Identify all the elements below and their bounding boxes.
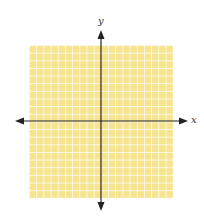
y-axis-down-arrow-icon bbox=[98, 202, 105, 211]
x-axis-right-arrow-icon bbox=[179, 118, 188, 125]
y-axis-up-arrow-icon bbox=[98, 30, 105, 39]
x-axis-left-arrow-icon bbox=[15, 118, 24, 125]
axes bbox=[0, 0, 204, 222]
x-axis-label: x bbox=[191, 115, 197, 125]
y-axis-label: y bbox=[98, 16, 104, 26]
